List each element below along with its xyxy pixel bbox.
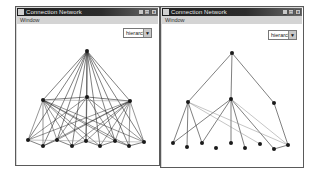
layout-dropdown[interactable]: hierarchy ▼ (123, 28, 152, 38)
maximize-button[interactable]: □ (288, 9, 294, 15)
chevron-down-icon[interactable]: ▼ (288, 31, 296, 39)
menu-bar: Window (162, 16, 302, 24)
layout-dropdown[interactable]: hierarchy ▼ (268, 30, 297, 40)
window-system-icon[interactable] (163, 9, 169, 15)
menu-window[interactable]: Window (20, 16, 40, 24)
window-title: Connection Network (171, 8, 227, 16)
maximize-button[interactable]: □ (144, 9, 150, 15)
chevron-down-icon[interactable]: ▼ (143, 29, 151, 37)
close-button[interactable]: × (151, 9, 157, 15)
window-system-icon[interactable] (18, 9, 24, 15)
title-bar[interactable]: Connection Network _ □ × (162, 8, 302, 16)
connection-network-window-right: Connection Network _ □ × Window hierarch… (160, 6, 304, 168)
window-title: Connection Network (26, 8, 82, 16)
connection-network-window-left: Connection Network _ □ × Window hierarch… (15, 6, 160, 166)
close-button[interactable]: × (295, 9, 301, 15)
network-canvas[interactable] (162, 24, 302, 166)
menu-window[interactable]: Window (165, 16, 185, 24)
network-canvas[interactable] (17, 24, 158, 164)
title-bar[interactable]: Connection Network _ □ × (17, 8, 158, 16)
menu-bar: Window (17, 16, 158, 24)
